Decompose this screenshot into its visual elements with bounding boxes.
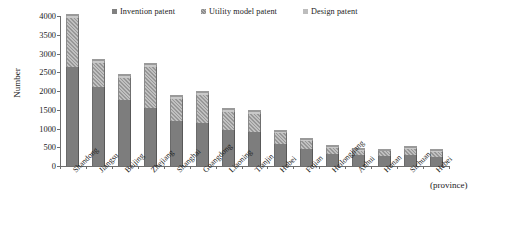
- bar-segment-utility-model-patent: [92, 63, 105, 87]
- bar-segment-utility-model-patent: [274, 133, 287, 144]
- bar-beijing[interactable]: [118, 76, 131, 166]
- plot-area: 40003500300025002000150010005000: [60, 16, 449, 166]
- bar-top-cap: [118, 74, 131, 76]
- bar-top-cap: [92, 59, 105, 61]
- bar-shandong[interactable]: [66, 16, 79, 166]
- y-tick-label: 3000: [12, 49, 60, 58]
- legend-item-utility-model-patent[interactable]: Utility model patent: [201, 7, 277, 16]
- bar-segment-utility-model-patent: [300, 141, 313, 149]
- bar-segment-utility-model-patent: [118, 78, 131, 101]
- y-axis-title: Number: [12, 53, 22, 113]
- bar-top-cap: [170, 95, 183, 97]
- design-swatch-icon: [303, 9, 308, 14]
- bar-top-cap: [378, 149, 391, 151]
- legend-label-invention-patent: Invention patent: [120, 7, 175, 16]
- legend-item-invention-patent[interactable]: Invention patent: [112, 7, 175, 16]
- bar-top-cap: [274, 130, 287, 132]
- y-tick-label: 500: [12, 143, 60, 152]
- bar-tianjin[interactable]: [248, 112, 261, 166]
- bar-segment-utility-model-patent: [170, 99, 183, 122]
- bar-top-cap: [66, 14, 79, 16]
- legend-label-utility-model-patent: Utility model patent: [209, 7, 277, 16]
- bar-top-cap: [196, 91, 209, 93]
- legend-label-design-patent: Design patent: [311, 7, 358, 16]
- x-label-group: ShandongJiangsuBeijingZhejiangShanghaiGu…: [60, 168, 449, 224]
- y-tick-label: 2000: [12, 87, 60, 96]
- legend-item-design-patent[interactable]: Design patent: [303, 7, 358, 16]
- bar-segment-utility-model-patent: [222, 112, 235, 131]
- y-tick-label: 1000: [12, 124, 60, 133]
- y-tick-label: 2500: [12, 68, 60, 77]
- bar-segment-invention-patent: [196, 123, 209, 166]
- bar-top-cap: [326, 145, 339, 147]
- bar-segment-utility-model-patent: [66, 18, 79, 67]
- y-tick-label: 4000: [12, 12, 60, 21]
- bar-segment-utility-model-patent: [248, 114, 261, 133]
- x-tick-mark: [449, 166, 450, 169]
- y-tick-label: 0: [12, 162, 60, 171]
- bar-segment-utility-model-patent: [144, 67, 157, 108]
- chart-legend: Invention patent Utility model patent De…: [112, 7, 358, 16]
- bar-top-cap: [222, 108, 235, 110]
- bar-top-cap: [144, 63, 157, 65]
- bar-top-cap: [300, 138, 313, 140]
- bar-segment-invention-patent: [170, 121, 183, 166]
- invention-swatch-icon: [112, 9, 117, 14]
- bar-segment-utility-model-patent: [196, 95, 209, 123]
- bar-top-cap: [404, 146, 417, 148]
- bar-segment-invention-patent: [66, 67, 79, 166]
- bar-group: [60, 16, 449, 166]
- bar-top-cap: [430, 149, 443, 151]
- utility-swatch-icon: [201, 9, 206, 14]
- y-tick-label: 1500: [12, 105, 60, 114]
- y-tick-label: 3500: [12, 30, 60, 39]
- bar-top-cap: [248, 110, 261, 112]
- chart-figure: Invention patent Utility model patent De…: [0, 0, 511, 225]
- bar-zhejiang[interactable]: [144, 65, 157, 166]
- bar-segment-invention-patent: [118, 100, 131, 166]
